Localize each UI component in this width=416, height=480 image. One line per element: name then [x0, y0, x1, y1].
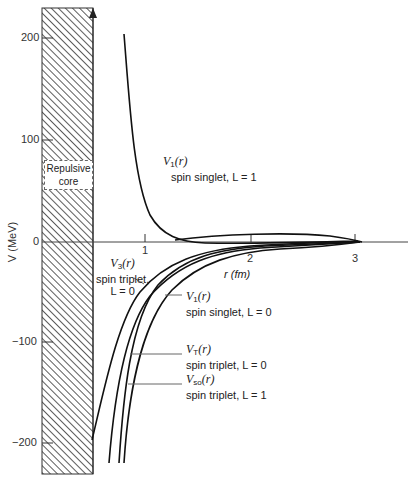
y-tick-minus100: −100 — [12, 335, 37, 347]
y-tick-minus200: −200 — [12, 436, 37, 448]
core-label-line1: Repulsive — [45, 162, 92, 175]
y-axis-label: V (MeV) — [6, 222, 18, 262]
x-axis-label: r (fm) — [224, 268, 250, 280]
potential-plot — [0, 0, 416, 480]
y-tick-200: 200 — [21, 31, 39, 43]
label-v3-triplet-L0: V3(r) spin triplet, L = 0 — [96, 257, 149, 297]
curve-upper-bulge — [175, 234, 362, 242]
label-vso-triplet-L1: Vso(r) spin triplet, L = 1 — [186, 373, 267, 401]
label-v1-singlet-L0-desc: spin singlet, L = 0 — [186, 306, 272, 318]
repulsive-core-label: Repulsive core — [44, 160, 93, 190]
label-vso-desc: spin triplet, L = 1 — [186, 389, 267, 401]
y-tick-100: 100 — [21, 133, 39, 145]
label-vT-desc: spin triplet, L = 0 — [186, 359, 267, 371]
core-label-line2: core — [45, 175, 92, 188]
repulsive-core-region — [42, 8, 93, 474]
label-v1-singlet-L1: V1(r) spin singlet, L = 1 — [163, 155, 257, 183]
label-v1-singlet-L0: V1(r) spin singlet, L = 0 — [186, 290, 272, 318]
label-v1-singlet-L1-desc: spin singlet, L = 1 — [163, 171, 257, 183]
curve-v1-singlet-L1 — [124, 34, 358, 243]
x-tick-3: 3 — [352, 252, 358, 264]
label-v3-desc2: L = 0 — [96, 285, 149, 297]
x-tick-1: 1 — [142, 244, 148, 256]
label-v3-desc1: spin triplet, — [96, 273, 149, 285]
label-vT-triplet-L0: VT(r) spin triplet, L = 0 — [186, 343, 267, 371]
x-tick-2: 2 — [247, 252, 253, 264]
y-tick-0: 0 — [33, 235, 39, 247]
